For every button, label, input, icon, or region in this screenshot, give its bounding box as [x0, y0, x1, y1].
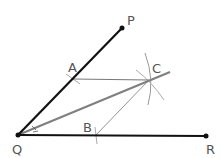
- label-b: B: [83, 120, 92, 135]
- bisector-ray: [18, 72, 170, 135]
- label-a: A: [68, 60, 77, 75]
- label-r: R: [206, 142, 215, 157]
- segment-bc: [96, 80, 149, 135]
- ray-qr: [18, 135, 206, 136]
- angle-bisector-diagram: P A C B Q R: [0, 0, 222, 158]
- label-c: C: [152, 61, 161, 76]
- label-q: Q: [12, 142, 22, 157]
- ray-qp: [18, 28, 122, 135]
- label-p: P: [127, 13, 135, 28]
- angle-mark-2: [33, 131, 38, 132]
- point-p: [120, 26, 125, 31]
- point-r: [204, 134, 209, 139]
- segment-ac: [73, 79, 149, 80]
- point-q: [16, 133, 21, 138]
- diagram-svg: P A C B Q R: [0, 0, 222, 158]
